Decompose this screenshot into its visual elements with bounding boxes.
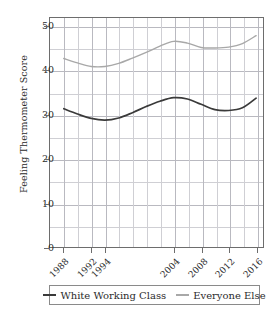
x-tick-mark — [257, 248, 258, 253]
y-tick-label: 40 — [28, 64, 54, 75]
legend-label: Everyone Else — [193, 290, 265, 301]
y-tick-mark — [44, 70, 49, 71]
y-tick-mark — [44, 204, 49, 205]
y-tick-mark — [44, 248, 49, 249]
y-axis-title: Feeling Thermometer Score — [16, 0, 32, 248]
y-tick-mark — [44, 115, 49, 116]
x-tick-mark — [229, 248, 230, 253]
legend: White Working ClassEveryone Else — [49, 285, 260, 305]
series-line — [64, 36, 256, 67]
x-tick-mark — [202, 248, 203, 253]
y-tick-label: 0 — [28, 242, 54, 253]
y-tick-label: 10 — [28, 198, 54, 209]
x-tick-mark — [105, 248, 106, 253]
y-tick-label: 30 — [28, 109, 54, 120]
y-tick-label: 20 — [28, 153, 54, 164]
plot-area — [49, 17, 264, 248]
x-tick-mark — [174, 248, 175, 253]
series-lines — [50, 18, 263, 247]
legend-line-swatch — [176, 294, 189, 296]
legend-line-swatch — [43, 294, 56, 296]
y-tick-mark — [44, 159, 49, 160]
line-chart: Feeling Thermometer Score 01020304050 19… — [0, 0, 277, 317]
legend-item[interactable]: White Working Class — [43, 290, 166, 301]
series-line — [64, 98, 256, 121]
y-tick-label: 50 — [28, 20, 54, 31]
legend-label: White Working Class — [60, 290, 166, 301]
legend-item[interactable]: Everyone Else — [176, 290, 265, 301]
x-tick-mark — [63, 248, 64, 253]
x-tick-mark — [91, 248, 92, 253]
y-tick-mark — [44, 26, 49, 27]
